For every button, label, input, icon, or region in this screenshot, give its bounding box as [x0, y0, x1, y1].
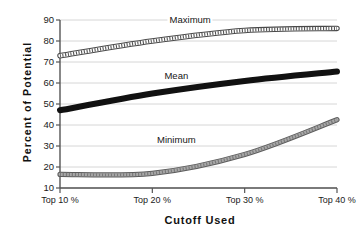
series-line-maximum-outline — [60, 28, 337, 55]
series-label-minimum: Minimum — [155, 134, 198, 145]
x-axis-tick-label: Top 10 % — [41, 195, 79, 205]
series-label-mean: Mean — [162, 70, 190, 81]
chart-container: Percent of Potential 102030405060708090 … — [0, 0, 359, 235]
x-axis-tick-label: Top 30 % — [226, 195, 264, 205]
series-line-mean — [60, 71, 337, 110]
series-label-maximum: Maximum — [168, 14, 213, 25]
x-axis-tick-label: Top 20 % — [134, 195, 172, 205]
series-mean — [60, 71, 337, 110]
x-axis-tick-label: Top 40 % — [318, 195, 356, 205]
x-axis-title: Cutoff Used — [60, 214, 340, 226]
series-maximum — [60, 28, 337, 55]
